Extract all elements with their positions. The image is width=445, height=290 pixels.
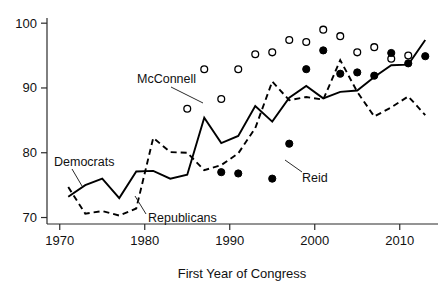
x-axis-title: First Year of Congress bbox=[178, 266, 307, 281]
data-point-reid bbox=[388, 49, 395, 56]
data-point-mcconnell bbox=[201, 66, 208, 73]
data-point-reid bbox=[320, 47, 327, 54]
data-point-mcconnell bbox=[235, 66, 242, 73]
data-point-reid bbox=[354, 69, 361, 76]
data-point-mcconnell bbox=[218, 96, 225, 103]
chart-container: 708090100 19701980199020002010 Democrats… bbox=[0, 0, 445, 290]
data-point-mcconnell bbox=[337, 33, 344, 40]
y-tick-label: 100 bbox=[15, 16, 37, 31]
label-democrats: Democrats bbox=[54, 155, 114, 169]
x-axis-ticks: 19701980199020002010 bbox=[45, 224, 414, 248]
x-tick-label: 1980 bbox=[130, 233, 159, 248]
data-point-mcconnell bbox=[354, 49, 361, 56]
data-point-mcconnell bbox=[405, 52, 412, 59]
leader-republicans bbox=[135, 196, 146, 214]
label-reid: Reid bbox=[302, 171, 328, 185]
data-point-reid bbox=[337, 70, 344, 77]
line-chart: 708090100 19701980199020002010 Democrats… bbox=[0, 0, 445, 290]
series-lines-group bbox=[68, 40, 425, 216]
data-point-mcconnell bbox=[303, 39, 310, 46]
data-point-reid bbox=[303, 66, 310, 73]
data-point-reid bbox=[422, 53, 429, 60]
x-tick-label: 2000 bbox=[300, 233, 329, 248]
leader-democrats bbox=[72, 169, 82, 186]
data-point-reid bbox=[235, 170, 242, 177]
y-tick-label: 70 bbox=[23, 210, 37, 225]
data-point-mcconnell bbox=[371, 44, 378, 51]
data-point-reid bbox=[218, 169, 225, 176]
series-points-group bbox=[184, 26, 429, 182]
data-point-reid bbox=[269, 175, 276, 182]
data-point-reid bbox=[405, 60, 412, 67]
series-line-democrats bbox=[68, 40, 425, 198]
leader-reid bbox=[285, 160, 302, 172]
leader-mcconnell bbox=[171, 87, 203, 103]
x-tick-label: 1970 bbox=[45, 233, 74, 248]
data-point-mcconnell bbox=[269, 49, 276, 56]
label-mcconnell: McConnell bbox=[137, 72, 196, 86]
data-point-mcconnell bbox=[184, 105, 191, 112]
x-tick-label: 1990 bbox=[215, 233, 244, 248]
x-tick-label: 2010 bbox=[385, 233, 414, 248]
data-point-reid bbox=[286, 140, 293, 147]
y-tick-label: 80 bbox=[23, 145, 37, 160]
data-point-mcconnell bbox=[320, 26, 327, 33]
data-point-reid bbox=[371, 72, 378, 79]
y-tick-label: 90 bbox=[23, 80, 37, 95]
y-axis-ticks: 708090100 bbox=[15, 16, 47, 225]
data-point-mcconnell bbox=[286, 37, 293, 44]
data-point-mcconnell bbox=[252, 51, 259, 58]
series-line-republicans bbox=[68, 60, 425, 215]
label-republicans: Republicans bbox=[148, 211, 217, 225]
axes-group bbox=[47, 18, 438, 224]
